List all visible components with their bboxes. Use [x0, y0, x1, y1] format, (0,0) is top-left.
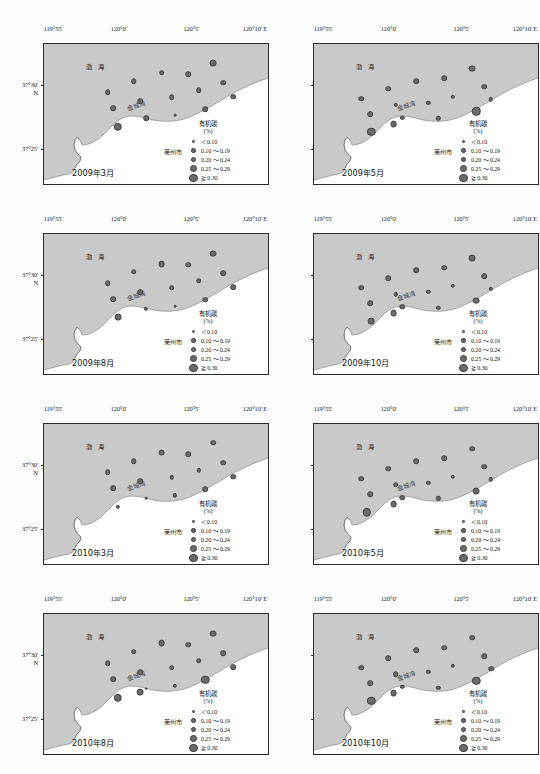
x-tick-label: 120°5' — [453, 595, 469, 602]
legend-row: ≧ 0.30 — [456, 363, 500, 372]
sample-point — [230, 284, 236, 290]
legend-unit-text: (%) — [456, 128, 500, 136]
legend-class-label: 0.25 ～ 0.29 — [201, 544, 230, 553]
sample-point — [210, 440, 216, 446]
legend-swatch-circle — [461, 528, 465, 532]
sample-point — [131, 78, 137, 84]
sample-point — [358, 665, 364, 671]
legend-row: 0.25 ～ 0.29 — [456, 734, 500, 743]
legend-swatch-circle — [191, 338, 195, 342]
x-tick-label: 120°5' — [183, 25, 199, 32]
legend-row: ≧ 0.30 — [456, 743, 500, 752]
legend-row: ＜0.10 — [456, 327, 500, 336]
sample-point — [390, 690, 397, 697]
label-bohai-sea: 渤 海 — [356, 252, 377, 261]
coastline-map — [314, 424, 538, 564]
sample-point — [358, 476, 364, 482]
legend-row: 0.20 ～ 0.24 — [456, 155, 500, 164]
sample-point — [138, 289, 144, 295]
y-tick-label: 37°30'N — [22, 651, 38, 667]
legend: 有机碳(%)＜0.100.10 ～ 0.190.20 ～ 0.240.25 ～ … — [186, 500, 230, 563]
legend-row: 0.20 ～ 0.24 — [186, 345, 230, 354]
legend-swatch-circle — [459, 744, 467, 752]
sample-point — [169, 665, 175, 671]
sample-point — [367, 491, 373, 497]
panel-date-label: 2009年5月 — [342, 166, 384, 178]
panel-frame: 渤 海金城湾莱州市有机碳(%)＜0.100.10 ～ 0.190.20 ～ 0.… — [43, 43, 269, 185]
sample-point — [481, 84, 487, 90]
sample-point — [488, 666, 494, 672]
legend: 有机碳(%)＜0.100.10 ～ 0.190.20 ～ 0.240.25 ～ … — [186, 690, 230, 753]
label-laizhou-city: 莱州市 — [164, 337, 182, 346]
panel-frame: 渤 海金城湾莱州市有机碳(%)＜0.100.10 ～ 0.190.20 ～ 0.… — [313, 43, 539, 185]
y-axis — [270, 423, 311, 563]
legend-class-label: 0.20 ～ 0.24 — [201, 345, 230, 354]
x-tick-label: 120°10' E — [243, 25, 267, 32]
y-axis — [270, 233, 311, 373]
sample-point — [368, 317, 375, 324]
legend-swatch-box — [186, 710, 201, 713]
legend-swatch-box — [186, 364, 201, 372]
legend-class-label: 0.10 ～ 0.19 — [201, 526, 230, 535]
legend-rows: ＜0.100.10 ～ 0.190.20 ～ 0.240.25 ～ 0.29≧ … — [456, 137, 500, 183]
legend-row: 0.20 ～ 0.24 — [456, 725, 500, 734]
y-axis: 37°30'N37°25' — [0, 43, 41, 183]
legend-swatch-box — [186, 165, 201, 172]
legend-swatch-circle — [191, 148, 195, 152]
sample-point — [111, 296, 117, 302]
label-laizhou-city: 莱州市 — [164, 527, 182, 536]
sample-point — [390, 120, 397, 127]
legend-title: 有机碳(%) — [456, 310, 500, 325]
y-tick-label: 37°30'N — [22, 271, 38, 287]
legend-swatch-box — [456, 528, 471, 532]
y-axis — [270, 43, 311, 183]
label-laizhou-city: 莱州市 — [434, 527, 452, 536]
sample-point — [230, 664, 236, 670]
y-tick-degrees: 37°30' — [22, 81, 38, 89]
legend-rows: ＜0.100.10 ～ 0.190.20 ～ 0.240.25 ～ 0.29≧ … — [456, 327, 500, 373]
sample-point — [186, 642, 192, 648]
legend-row: 0.20 ～ 0.24 — [186, 535, 230, 544]
label-bohai-sea: 渤 海 — [356, 442, 377, 451]
sample-point — [469, 65, 476, 72]
coastline-map — [44, 614, 268, 754]
legend-class-label: ≧ 0.30 — [471, 175, 487, 181]
sample-point — [210, 250, 217, 257]
sample-point — [473, 297, 480, 304]
legend-class-label: 0.25 ～ 0.29 — [201, 164, 230, 173]
label-laizhou-city: 莱州市 — [164, 147, 182, 156]
legend-class-label: 0.20 ～ 0.24 — [201, 725, 230, 734]
sample-point — [159, 70, 165, 76]
sample-point — [481, 273, 487, 279]
legend-title: 有机碳(%) — [456, 500, 500, 515]
legend-title: 有机碳(%) — [186, 500, 230, 515]
legend-swatch-box — [186, 174, 201, 182]
legend-row: 0.25 ～ 0.29 — [456, 544, 500, 553]
legend-title: 有机碳(%) — [456, 120, 500, 135]
sample-point — [385, 275, 391, 281]
label-bohai-sea: 渤 海 — [86, 632, 107, 641]
y-tick-label: 37°25' — [22, 715, 38, 723]
sample-point — [358, 285, 364, 291]
sample-point — [220, 270, 226, 276]
sample-point — [138, 99, 144, 105]
legend-row: 0.20 ～ 0.24 — [186, 155, 230, 164]
legend-class-label: ≧ 0.30 — [471, 745, 487, 751]
x-axis: 119°55'120°0'120°5'120°10' E — [313, 595, 539, 613]
legend-swatch-circle — [192, 140, 195, 143]
legend-title-text: 有机碳 — [199, 690, 217, 697]
x-tick-label: 120°0' — [381, 405, 397, 412]
legend-unit-text: (%) — [186, 128, 230, 136]
sample-point — [115, 314, 122, 321]
sample-point — [220, 460, 226, 466]
x-axis: 119°55'120°0'120°5'120°10' E — [43, 215, 269, 233]
legend-swatch-circle — [191, 718, 195, 722]
legend-swatch-box — [186, 537, 201, 543]
panel-date-label: 2010年5月 — [342, 546, 384, 558]
label-laizhou-city: 莱州市 — [434, 147, 452, 156]
panel-frame: 渤 海金城湾莱州市有机碳(%)＜0.100.10 ～ 0.190.20 ～ 0.… — [313, 613, 539, 755]
legend-swatch-circle — [190, 735, 197, 742]
legend-swatch-box — [456, 165, 471, 172]
sample-point — [367, 301, 373, 307]
sample-point — [158, 261, 165, 268]
